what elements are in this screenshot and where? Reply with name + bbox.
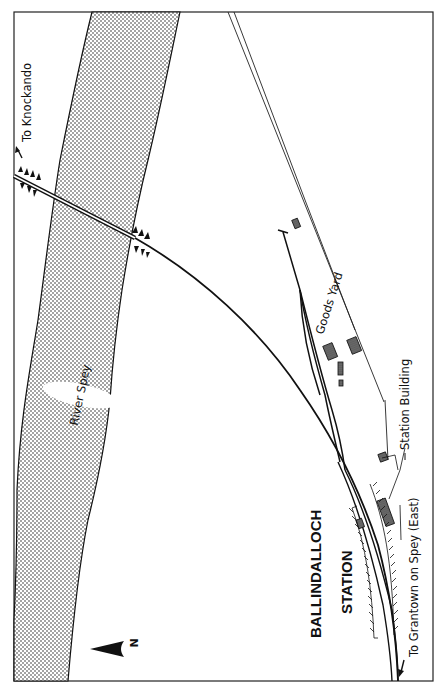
river-spey: River Spey xyxy=(14,12,180,681)
station-approach-line xyxy=(400,505,401,540)
platforms xyxy=(349,482,398,638)
building-goods-shed xyxy=(323,343,338,361)
building-small-2 xyxy=(339,380,343,386)
map-title-line2: STATION xyxy=(338,550,355,614)
label-to-knockando: To Knockando xyxy=(20,63,34,143)
north-label: N xyxy=(128,638,141,647)
north-arrow: N xyxy=(90,638,141,657)
building-goods-store xyxy=(347,337,362,355)
direction-arrow-south xyxy=(398,660,404,677)
road xyxy=(228,12,388,460)
label-goods-yard: Goods Yard xyxy=(313,270,346,335)
map-title-line1: BALLINDALLOCH xyxy=(307,510,324,638)
building-small-1 xyxy=(338,362,343,375)
station-road-line xyxy=(382,455,398,470)
label-to-grantown: To Grantown on Spey (East) xyxy=(407,497,421,658)
building-yard-north xyxy=(292,218,301,229)
label-station-building: Station Building xyxy=(398,359,412,450)
direction-arrow-north xyxy=(15,146,22,158)
buildings xyxy=(292,218,395,529)
ballindalloch-station-map: River Spey xyxy=(0,0,442,688)
north-arrow-icon xyxy=(90,641,124,657)
